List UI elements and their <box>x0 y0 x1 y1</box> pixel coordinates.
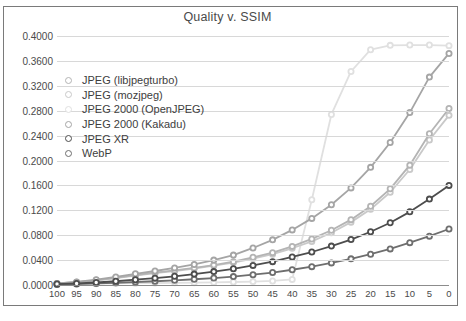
data-point-marker <box>348 237 353 242</box>
gridline <box>57 210 449 211</box>
x-axis-tick-label: 75 <box>150 288 161 299</box>
x-axis-tick-label: 15 <box>385 288 396 299</box>
data-point-marker <box>368 252 373 257</box>
data-point-marker <box>329 228 334 233</box>
data-point-marker <box>388 186 393 191</box>
x-axis-tick-label: 30 <box>326 288 337 299</box>
data-point-marker <box>172 274 177 279</box>
y-axis-labels: 0.00000.04000.08000.12000.16000.20000.24… <box>0 36 53 285</box>
x-axis-tick-label: 10 <box>405 288 416 299</box>
figure-container: Quality v. SSIM 0.00000.04000.08000.1200… <box>0 0 466 321</box>
figure-caption <box>4 309 304 321</box>
data-point-marker <box>368 47 373 52</box>
x-axis-tick-label: 0 <box>446 288 451 299</box>
legend-item[interactable]: JPEG (mozjpeg) <box>62 88 262 103</box>
data-point-marker <box>388 140 393 145</box>
data-point-marker <box>309 197 314 202</box>
legend-label: JPEG XR <box>82 133 129 145</box>
x-axis-tick-label: 85 <box>111 288 122 299</box>
data-point-marker <box>309 264 314 269</box>
data-point-marker <box>446 43 451 48</box>
data-point-marker <box>446 113 451 118</box>
data-point-marker <box>250 279 255 284</box>
legend-marker-circle-icon <box>62 74 75 87</box>
data-point-marker <box>270 270 275 275</box>
x-axis-tick-label: 40 <box>287 288 298 299</box>
data-point-marker <box>388 220 393 225</box>
data-point-marker <box>407 42 412 47</box>
data-point-marker <box>250 272 255 277</box>
data-point-marker <box>407 163 412 168</box>
legend-label: WebP <box>82 147 112 159</box>
data-point-marker <box>290 227 295 232</box>
data-point-marker <box>309 216 314 221</box>
x-axis-tick-label: 25 <box>346 288 357 299</box>
legend-item[interactable]: JPEG 2000 (Kakadu) <box>62 117 262 132</box>
gridline <box>57 61 449 62</box>
data-point-marker <box>211 275 216 280</box>
x-axis-tick-label: 95 <box>71 288 82 299</box>
legend-item[interactable]: JPEG XR <box>62 131 262 146</box>
y-axis-tick-label: 0.2400 <box>22 130 53 141</box>
data-point-marker <box>329 202 334 207</box>
x-axis-tick-label: 70 <box>169 288 180 299</box>
data-point-marker <box>348 217 353 222</box>
gridline <box>57 260 449 261</box>
x-axis-tick-label: 45 <box>267 288 278 299</box>
data-point-marker <box>290 254 295 259</box>
legend-marker-circle-icon <box>62 88 75 101</box>
y-axis-tick-label: 0.2000 <box>22 155 53 166</box>
gridline <box>57 235 449 236</box>
x-axis-tick-label: 55 <box>228 288 239 299</box>
legend-item[interactable]: WebP <box>62 146 262 161</box>
legend-marker-circle-icon <box>62 103 75 116</box>
data-point-marker <box>368 204 373 209</box>
y-axis-tick-label: 0.3600 <box>22 55 53 66</box>
data-point-marker <box>290 244 295 249</box>
x-axis-tick-label: 20 <box>365 288 376 299</box>
y-axis-tick-label: 0.1600 <box>22 180 53 191</box>
legend-label: JPEG (libjpegturbo) <box>82 74 178 86</box>
data-point-marker <box>211 269 216 274</box>
y-axis-tick-label: 0.2800 <box>22 105 53 116</box>
legend-label: JPEG (mozjpeg) <box>82 89 163 101</box>
data-point-marker <box>446 226 451 231</box>
data-point-marker <box>172 265 177 270</box>
data-point-marker <box>309 236 314 241</box>
y-axis-tick-label: 0.3200 <box>22 80 53 91</box>
data-point-marker <box>368 165 373 170</box>
data-point-marker <box>309 249 314 254</box>
y-axis-tick-label: 0.1200 <box>22 205 53 216</box>
data-point-marker <box>152 268 157 273</box>
legend-item[interactable]: JPEG 2000 (OpenJPEG) <box>62 102 262 117</box>
data-point-marker <box>388 246 393 251</box>
data-point-marker <box>329 243 334 248</box>
data-point-marker <box>290 277 295 282</box>
legend-marker-circle-icon <box>62 132 75 145</box>
legend-label: JPEG 2000 (Kakadu) <box>82 118 186 130</box>
y-axis-tick-label: 0.4000 <box>22 31 53 42</box>
data-point-marker <box>388 43 393 48</box>
data-point-marker <box>368 229 373 234</box>
x-axis-tick-label: 35 <box>307 288 318 299</box>
x-axis-tick-label: 100 <box>49 288 65 299</box>
x-axis-tick-label: 65 <box>189 288 200 299</box>
x-axis-tick-label: 5 <box>427 288 432 299</box>
x-axis-line <box>57 285 449 286</box>
data-point-marker <box>152 276 157 281</box>
legend-marker-circle-icon <box>62 147 75 160</box>
data-point-marker <box>231 266 236 271</box>
chart-title: Quality v. SSIM <box>0 10 455 24</box>
gridline <box>57 36 449 37</box>
data-point-marker <box>427 42 432 47</box>
data-point-marker <box>427 196 432 201</box>
x-axis-tick-label: 50 <box>248 288 259 299</box>
data-point-marker <box>250 245 255 250</box>
legend-item[interactable]: JPEG (libjpegturbo) <box>62 73 262 88</box>
data-point-marker <box>270 250 275 255</box>
data-point-marker <box>348 69 353 74</box>
data-point-marker <box>231 274 236 279</box>
gridline <box>57 161 449 162</box>
data-point-marker <box>133 277 138 282</box>
x-axis-tick-label: 80 <box>130 288 141 299</box>
